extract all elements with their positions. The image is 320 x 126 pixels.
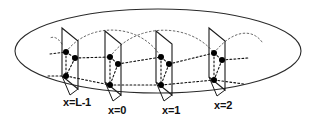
- slice-3-dot-upper: [211, 50, 217, 56]
- intra-slice-bond-layer: [66, 52, 222, 85]
- slice-1-dot-lower: [107, 82, 113, 88]
- slice-0-dot-upper: [63, 49, 69, 55]
- link-stub-right-middle: [222, 58, 248, 60]
- wrap-arc-tail-left: [50, 37, 62, 44]
- slice-0-dot-middle: [72, 55, 78, 61]
- slice-1-dot-middle: [115, 61, 121, 67]
- slice-0-dot-lower: [63, 73, 69, 79]
- slice-2-dot-upper: [158, 54, 164, 60]
- slice-1-label: x=0: [108, 104, 126, 116]
- slice-2-dot-middle: [166, 61, 172, 67]
- link-middle-2-3: [169, 53, 214, 64]
- lattice-slices-figure: x=L-1x=0x=1x=2: [0, 0, 320, 126]
- slice-0-label: x=L-1: [63, 96, 91, 108]
- diagram-canvas: x=L-1x=0x=1x=2: [0, 0, 320, 126]
- slice-1-dot-upper: [107, 54, 113, 60]
- slice-3-dot-lower: [211, 77, 217, 83]
- slice-2-label: x=1: [162, 104, 180, 116]
- slice-3-dot-middle: [219, 57, 225, 63]
- axis-label-layer: x=L-1x=0x=1x=2: [63, 96, 232, 116]
- slice-3-label: x=2: [214, 99, 232, 111]
- slice-2-dot-lower: [158, 82, 164, 88]
- link-middle-1-2: [118, 57, 161, 64]
- site-dot-layer: [63, 49, 225, 88]
